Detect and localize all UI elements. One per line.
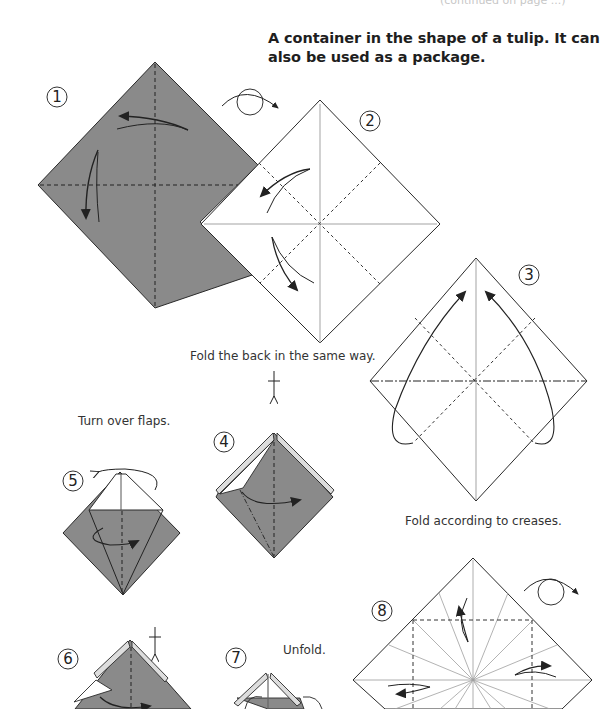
turn-over-icon [524, 579, 578, 605]
turn-over-icon [222, 89, 278, 115]
step-4-diagram: 4 [214, 371, 334, 558]
step-number: 4 [219, 433, 229, 451]
step-number: 2 [365, 112, 375, 130]
step-number: 1 [52, 88, 62, 106]
step-3-diagram: 3 [370, 258, 587, 501]
origami-diagram: 1 2 3 [0, 0, 610, 709]
step-2-diagram: 2 [201, 100, 440, 343]
step-7-diagram: 7 [226, 648, 322, 709]
step-number: 5 [68, 472, 78, 490]
step-number: 6 [63, 650, 73, 668]
step-5-diagram: 5 [63, 469, 180, 595]
step-6-diagram: 6 [58, 627, 191, 709]
step-number: 3 [524, 266, 534, 284]
step-number: 8 [377, 602, 387, 620]
step-1-diagram: 1 [38, 62, 258, 308]
step-number: 7 [231, 649, 241, 667]
